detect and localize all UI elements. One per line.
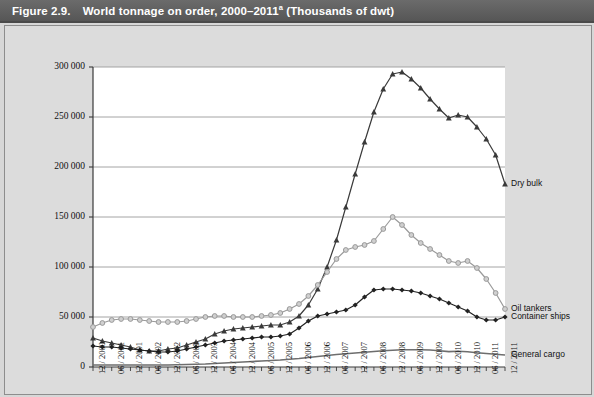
series-label-container-ships: Container ships [511, 311, 570, 321]
figure-root: Figure 2.9.World tonnage on order, 2000–… [0, 0, 594, 397]
figure-title: Figure 2.9.World tonnage on order, 2000–… [12, 3, 394, 17]
series-label-general-cargo: General cargo [511, 349, 565, 359]
figure-units: (Thousands of dwt) [286, 5, 394, 17]
figure-title-bar: Figure 2.9.World tonnage on order, 2000–… [0, 0, 594, 23]
series-labels: Dry bulkOil tankersContainer shipsGenera… [5, 26, 591, 394]
series-label-dry-bulk: Dry bulk [511, 178, 542, 188]
figure-number: Figure 2.9. [12, 5, 71, 17]
figure-plate: 050 000100 000150 000200 000250 000300 0… [4, 25, 592, 395]
figure-title-text: World tonnage on order, 2000–2011 [83, 5, 279, 17]
